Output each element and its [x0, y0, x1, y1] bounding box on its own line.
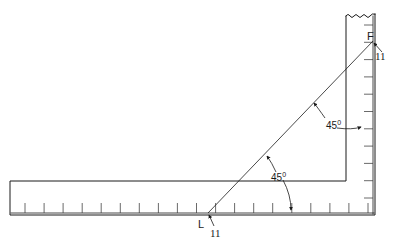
- diagonal-line: [208, 41, 373, 213]
- lower-angle-value: 45: [271, 172, 282, 183]
- point-l-label: L: [198, 219, 204, 230]
- lower-angle-unit: 0: [282, 171, 286, 178]
- point-l-callout: 11: [210, 228, 221, 239]
- break-line: [346, 14, 375, 18]
- upper-angle-label: 450: [326, 117, 341, 131]
- bottom-scale-ticks: [25, 203, 368, 213]
- upper-angle-value: 45: [326, 120, 337, 131]
- side-scale-ticks: [364, 25, 373, 198]
- upper-angle-arc-1: [314, 103, 325, 118]
- point-f-callout: 11: [375, 51, 386, 62]
- point-f-label: F: [367, 31, 374, 42]
- lower-angle-label: 450: [271, 169, 286, 183]
- square-outline: [10, 14, 375, 215]
- l-callout-arrow: [209, 215, 214, 226]
- upper-angle-unit: 0: [337, 119, 341, 126]
- lower-angle-arc-2: [283, 180, 291, 210]
